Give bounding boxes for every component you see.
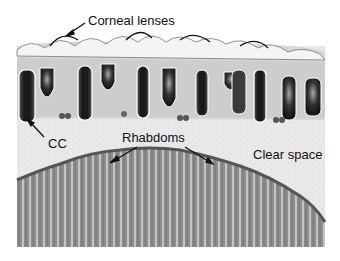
label-clear-space: Clear space (253, 148, 322, 161)
label-rhabdoms: Rhabdoms (122, 131, 185, 144)
corneal-lenses (17, 36, 325, 60)
label-cc: CC (48, 137, 67, 150)
label-corneal-lenses: Corneal lenses (88, 14, 175, 27)
eye-cross-section-figure: Corneal lenses CC Rhabdoms Clear space (0, 0, 340, 261)
